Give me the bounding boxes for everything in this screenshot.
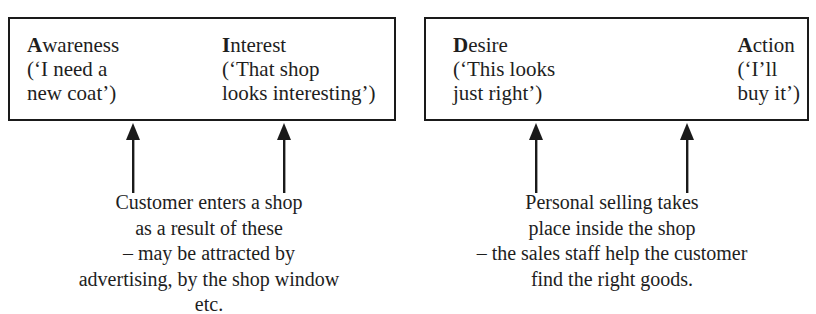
stage-quote-line: (‘This looks — [453, 57, 555, 81]
caption-line: Customer enters a shop — [58, 190, 360, 216]
stage-quote-line: (‘I need a — [27, 57, 119, 81]
caption-line: etc. — [58, 292, 360, 314]
stage-quote-line: (‘That shop — [222, 57, 375, 81]
caption-line: – may be attracted by — [58, 241, 360, 267]
caption-personal-selling: Personal selling takes place inside the … — [462, 190, 762, 292]
desire-action-box: Desire (‘This looks just right’) Action … — [424, 17, 809, 121]
arrow-up-icon — [680, 123, 694, 193]
stage-quote-line: buy it’) — [738, 81, 800, 105]
stage-heading: Action — [738, 33, 800, 57]
attention-interest-box: Awareness (‘I need a new coat’) Interest… — [8, 17, 396, 121]
arrow-up-icon — [529, 123, 543, 193]
arrow-up-icon — [126, 123, 140, 193]
stage-heading: Interest — [222, 33, 375, 57]
stage-rest: wareness — [42, 33, 119, 57]
stage-initial: I — [222, 33, 230, 57]
stage-rest: nterest — [230, 33, 286, 57]
caption-line: find the right goods. — [462, 267, 762, 293]
stage-heading: Awareness — [27, 33, 119, 57]
stage-initial: A — [738, 33, 753, 57]
caption-line: advertising, by the shop window — [58, 267, 360, 293]
stage-desire: Desire (‘This looks just right’) — [453, 33, 555, 105]
stage-quote-line: new coat’) — [27, 81, 119, 105]
stage-initial: D — [453, 33, 468, 57]
stage-quote-line: just right’) — [453, 81, 555, 105]
arrow-up-icon — [277, 123, 291, 193]
caption-line: – the sales staff help the customer — [462, 241, 762, 267]
stage-initial: A — [27, 33, 42, 57]
stage-action: Action (‘I’ll buy it’) — [738, 33, 800, 105]
stage-quote-line: looks interesting’) — [222, 81, 375, 105]
stage-rest: esire — [468, 33, 508, 57]
stage-interest: Interest (‘That shop looks interesting’) — [222, 33, 375, 105]
caption-customer-enters-shop: Customer enters a shop as a result of th… — [58, 190, 360, 314]
stage-quote-line: (‘I’ll — [738, 57, 800, 81]
caption-line: Personal selling takes — [462, 190, 762, 216]
stage-awareness: Awareness (‘I need a new coat’) — [27, 33, 119, 105]
stage-rest: ction — [753, 33, 795, 57]
stage-heading: Desire — [453, 33, 555, 57]
caption-line: place inside the shop — [462, 216, 762, 242]
caption-line: as a result of these — [58, 216, 360, 242]
